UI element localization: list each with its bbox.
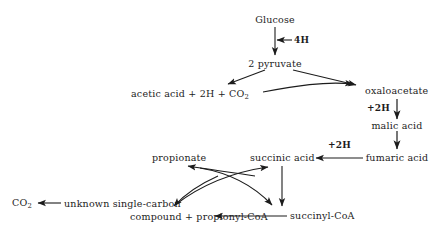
node-propionate: propionate [152,152,206,163]
figure-caption [0,234,443,245]
node-acetic-acid: acetic acid + 2H + CO2 [131,88,249,99]
node-glucose: Glucose [255,14,295,25]
unknown-compound-line1: unknown single-carbon [64,198,181,209]
arrow-pyruvate-to-acetic-acid [228,70,265,84]
node-fumaric-acid: fumaric acid [366,152,429,163]
arrow-co2-curve-to-oxaloacetate [263,83,353,92]
unknown-compound-line2: compound + propionyl-CoA [64,210,268,223]
node-succinic-acid: succinic acid [250,152,315,163]
node-pyruvate: 2 pyruvate [248,58,302,69]
node-unknown-single-carbon-compound: unknown single-carbon compound + propion… [64,197,268,223]
co2-left-subscript: 2 [27,202,32,210]
node-co2-left-label: CO [12,197,27,208]
cofactor-2h-fumaric: +2H [328,140,351,150]
arrow-to-propionate-curve [188,166,255,176]
node-co2-left: CO2 [12,197,32,208]
cofactor-2h-oxaloacetate: +2H [367,103,390,113]
acetic-acid-co2-subscript: 2 [245,93,250,101]
node-oxaloacetate: oxaloacetate [365,85,428,96]
metabolic-pathway-diagram: Glucose 4H 2 pyruvate acetic acid + 2H +… [0,0,443,245]
cofactor-4h: 4H [294,35,309,45]
node-succinyl-coa: succinyl-CoA [290,210,355,221]
arrow-pyruvate-to-oxaloacetate [293,70,356,85]
node-acetic-acid-label: acetic acid + 2H + CO [131,88,245,99]
node-malic-acid: malic acid [371,120,422,131]
